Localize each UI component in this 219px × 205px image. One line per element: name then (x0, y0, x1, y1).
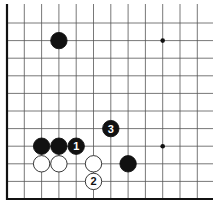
white-stone-move-2: 2 (85, 173, 101, 189)
white-stone (33, 156, 49, 172)
star-point (160, 38, 165, 43)
black-stone-move-3: 3 (103, 120, 119, 136)
black-stone-move-1: 1 (68, 138, 84, 154)
move-number: 2 (90, 175, 96, 187)
move-number: 1 (73, 140, 79, 152)
star-point (160, 144, 165, 149)
black-stone (51, 138, 67, 154)
black-stone (51, 32, 67, 48)
move-number: 3 (108, 123, 114, 135)
white-stone (51, 156, 67, 172)
go-board: 123 (0, 0, 219, 205)
white-stone (85, 156, 101, 172)
black-stone (33, 138, 49, 154)
black-stone (120, 156, 136, 172)
